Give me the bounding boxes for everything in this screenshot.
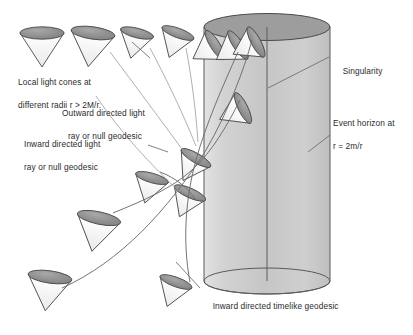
event-horizon-label: Event horizon at r = 2m/r: [333, 107, 395, 152]
exterior-light-cone-6: [70, 207, 121, 255]
inward-light-ray-label: Inward directed light ray or null geodes…: [24, 128, 100, 173]
exterior-light-cone-7: [128, 169, 169, 208]
outward-light-ray-line1: Outward directed light: [62, 108, 145, 118]
exterior-light-cone-1: [20, 27, 64, 67]
exterior-light-cone-5: [23, 268, 72, 314]
local-light-cones-line1: Local light cones at: [18, 77, 91, 87]
inward-timelike-geodesic-label: Inward directed timelike geodesic: [203, 290, 339, 324]
exterior-light-cone-2: [66, 24, 115, 70]
inward-light-ray-line1: Inward directed light: [24, 139, 100, 149]
event-horizon-line2: r = 2m/r: [333, 141, 363, 151]
event-horizon-line1: Event horizon at: [333, 118, 395, 128]
singularity-text: Singularity: [343, 66, 383, 76]
inward-timelike-geodesic-text: Inward directed timelike geodesic: [213, 301, 339, 311]
inward-light-ray-line2: ray or null geodesic: [24, 162, 98, 172]
exterior-light-cone-9: [151, 272, 193, 313]
singularity-label: Singularity: [333, 55, 382, 89]
light-cone-black-hole-diagram: Local light cones at different radii r >…: [0, 0, 413, 335]
exterior-light-cone-4: [153, 23, 195, 64]
